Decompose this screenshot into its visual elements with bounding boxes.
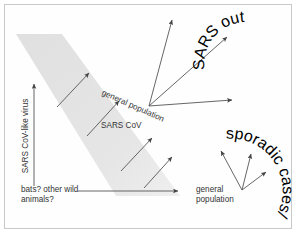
outbreak-fan-arrow-right bbox=[149, 100, 232, 106]
outbreak-fan-arrow-diagonal bbox=[149, 37, 227, 106]
diagram-figure: SARS outbreak sporadic cases/small outbr… bbox=[0, 0, 298, 235]
label-sars-cov-like-virus: SARS CoV-like virus bbox=[21, 84, 31, 188]
label-bats-wild-animals: bats? other wild animals? bbox=[21, 185, 83, 205]
label-sars-cov: SARS CoV bbox=[101, 121, 142, 131]
outbreak-fan-arrow-up bbox=[149, 20, 172, 106]
label-general-population-bottom: general population bbox=[196, 185, 250, 205]
